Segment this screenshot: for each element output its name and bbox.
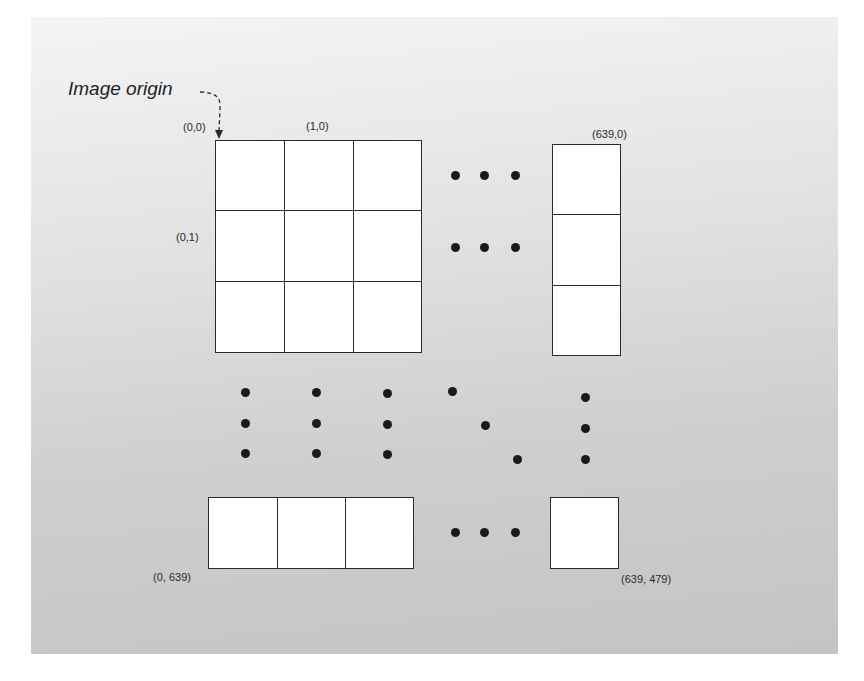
last-pixel-cell: [550, 497, 619, 569]
pixel-cell: [345, 497, 414, 569]
pixel-cell: [277, 497, 346, 569]
pixel-cell: [353, 210, 422, 282]
pixel-cell: [215, 210, 285, 282]
pixel-cell: [353, 140, 422, 211]
pixel-cell: [552, 285, 621, 356]
pixel-cell: [552, 144, 621, 215]
label-pixel-639-479: (639, 479): [621, 573, 671, 585]
label-pixel-0-1: (0,1): [176, 231, 199, 243]
pixel-cell: [215, 281, 285, 353]
label-pixel-639-0: (639,0): [592, 128, 627, 140]
label-pixel-1-0: (1,0): [306, 120, 329, 132]
label-origin: (0,0): [183, 121, 206, 133]
pixel-cell: [208, 497, 278, 569]
pixel-cell: [353, 281, 422, 353]
dashed-arrow-icon: [0, 0, 864, 681]
pixel-cell: [552, 214, 621, 286]
pixel-cell: [215, 140, 285, 211]
pixel-cell: [284, 281, 354, 353]
pixel-cell: [284, 210, 354, 282]
label-pixel-0-639: (0, 639): [153, 571, 191, 583]
pixel-cell: [284, 140, 354, 211]
